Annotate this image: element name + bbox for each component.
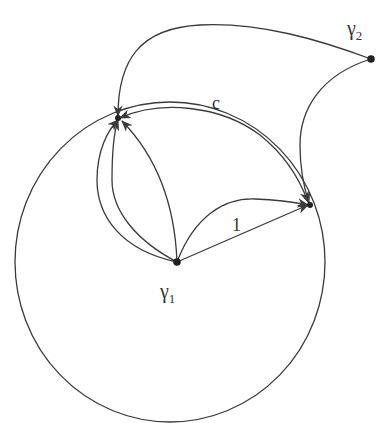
edge-gamma2-p2 xyxy=(300,59,371,203)
boundary-circle xyxy=(15,102,325,422)
edge-gamma1-p2-arc xyxy=(177,199,308,262)
label-one: 1 xyxy=(232,215,241,235)
label-gamma1: γ1 xyxy=(159,280,175,306)
label-gamma2: γ2 xyxy=(346,17,362,43)
edge-gamma1-p1-inner xyxy=(112,120,177,262)
node-gamma2 xyxy=(367,55,375,63)
edge-one xyxy=(177,205,308,262)
node-gamma1 xyxy=(173,258,181,266)
label-c: c xyxy=(212,93,220,113)
diagram-canvas: γ1 γ2 c 1 xyxy=(0,0,378,423)
edge-gamma1-p1-right xyxy=(122,121,177,262)
node-p1 xyxy=(115,115,121,121)
node-p2 xyxy=(307,202,313,208)
